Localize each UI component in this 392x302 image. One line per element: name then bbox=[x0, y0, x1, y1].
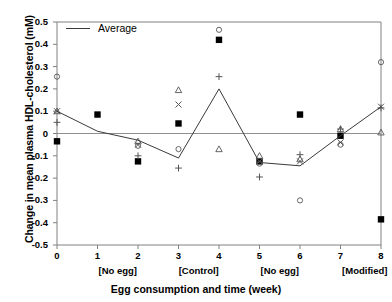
data-point-open-circle bbox=[216, 27, 221, 32]
data-point-open-circle bbox=[297, 198, 302, 203]
data-point-open-triangle bbox=[175, 87, 181, 93]
data-point-filled-square bbox=[216, 37, 222, 43]
plot-area bbox=[0, 0, 392, 302]
data-point-filled-square bbox=[175, 120, 181, 126]
data-point-filled-square bbox=[94, 111, 100, 117]
data-point-open-circle bbox=[176, 147, 181, 152]
chart-container: Change in mean plasma HDL-cholesterol (m… bbox=[0, 0, 392, 302]
data-point-open-triangle bbox=[216, 146, 222, 152]
average-line bbox=[57, 89, 381, 166]
data-point-filled-square bbox=[297, 111, 303, 117]
data-point-filled-square bbox=[54, 138, 60, 144]
data-point-filled-square bbox=[378, 216, 384, 222]
